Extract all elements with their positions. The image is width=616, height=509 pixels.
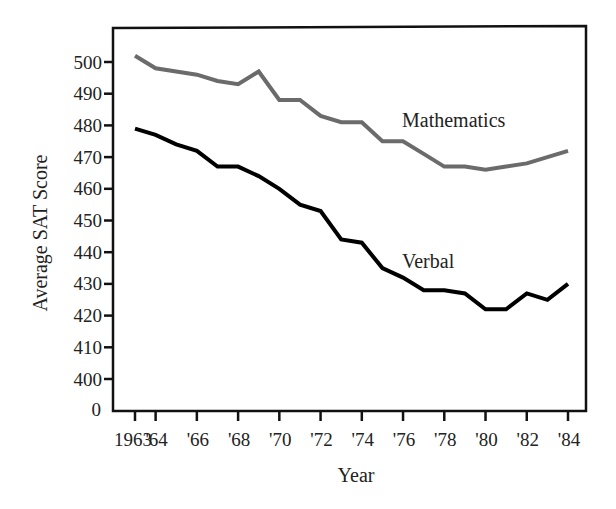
- plot-frame: [113, 26, 586, 411]
- x-tick-label: '72: [310, 429, 332, 450]
- y-tick-label: 480: [74, 115, 103, 136]
- x-tick-label: '68: [228, 429, 250, 450]
- series-label-mathematics: Mathematics: [402, 109, 506, 131]
- x-axis-title: Year: [338, 464, 375, 486]
- x-tick-label: '74: [352, 429, 375, 450]
- x-tick-label: '78: [434, 429, 456, 450]
- x-tick-label: '70: [269, 429, 291, 450]
- sat-score-chart: 4004104204304404504604704804905000 1963'…: [0, 0, 616, 509]
- series-line-verbal: [135, 129, 568, 310]
- x-tick-label: '66: [187, 429, 209, 450]
- plot-border: [113, 26, 586, 411]
- y-tick-label: 400: [74, 369, 103, 390]
- x-tick-label: '80: [475, 429, 497, 450]
- y-tick-label: 500: [74, 52, 103, 73]
- y-tick-label: 420: [74, 305, 103, 326]
- y-tick-label: 430: [74, 273, 103, 294]
- x-tick-label: '82: [517, 429, 539, 450]
- y-tick-label-zero: 0: [92, 399, 102, 420]
- series-lines: [135, 56, 568, 310]
- y-tick-label: 440: [74, 242, 103, 263]
- x-tick-label: '76: [393, 429, 415, 450]
- series-label-verbal: Verbal: [402, 250, 455, 272]
- y-tick-label: 490: [74, 83, 103, 104]
- y-tick-label: 460: [74, 178, 103, 199]
- y-tick-label: 470: [74, 147, 103, 168]
- x-axis-ticks: 1963'64'66'68'70'72'74'76'78'80'82'84: [114, 411, 581, 450]
- y-axis-title: Average SAT Score: [29, 154, 52, 311]
- x-tick-label: '64: [145, 429, 168, 450]
- x-tick-label: '84: [558, 429, 581, 450]
- y-tick-label: 410: [74, 337, 103, 358]
- y-tick-label: 450: [74, 210, 103, 231]
- y-axis-ticks: 4004104204304404504604704804905000: [74, 52, 114, 421]
